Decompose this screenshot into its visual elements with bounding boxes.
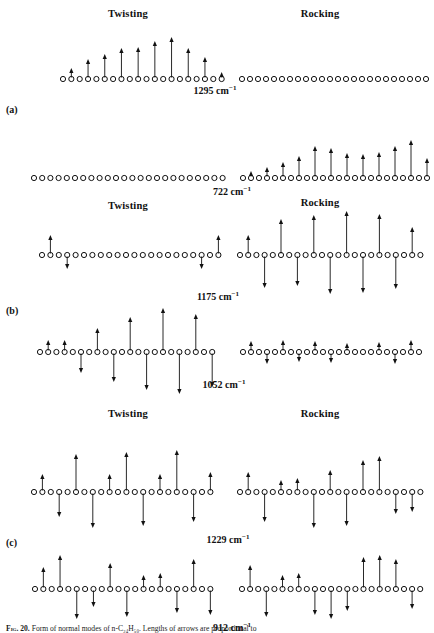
atom-marker: [237, 252, 242, 257]
figure-caption: Fig. 20. Form of normal modes of n-C₂₄H₅…: [6, 624, 430, 633]
displacement-arrow: [394, 559, 398, 588]
atom-marker: [288, 349, 293, 354]
panel-tag: (b): [6, 305, 18, 316]
displacement-arrow: [377, 342, 381, 351]
atom-marker: [163, 175, 168, 180]
atom-marker: [113, 175, 118, 180]
atom-marker: [54, 349, 59, 354]
displacement-arrow: [128, 317, 132, 351]
atom-marker: [359, 76, 364, 81]
frequency-unit-exponent: −1: [238, 378, 246, 386]
atom-marker: [311, 76, 316, 81]
atom-marker: [201, 349, 206, 354]
atom-chain-rocking: [240, 175, 429, 180]
atom-marker: [375, 76, 380, 81]
atom-marker: [72, 175, 77, 180]
atom-marker: [303, 489, 308, 494]
displacement-arrow: [265, 354, 269, 365]
atom-marker: [116, 586, 121, 591]
atom-marker: [327, 76, 332, 81]
mode-type-label: Twisting: [108, 200, 148, 211]
atom-marker: [187, 175, 192, 180]
displacement-arrow: [361, 257, 365, 294]
displacement-arrow: [394, 257, 398, 290]
atom-marker: [272, 349, 277, 354]
displacement-arrow: [40, 474, 44, 491]
displacement-arrow: [220, 72, 224, 78]
atom-marker: [407, 76, 412, 81]
atom-marker: [65, 489, 70, 494]
atom-marker: [99, 489, 104, 494]
displacement-arrow: [377, 214, 381, 254]
atom-chain-twisting: [31, 175, 225, 180]
displacement-arrow: [75, 591, 79, 620]
atom-marker: [127, 76, 132, 81]
atom-marker: [288, 175, 293, 180]
displacement-arrow: [265, 167, 269, 177]
displacement-arrow: [141, 494, 145, 527]
displacement-arrow: [393, 354, 397, 365]
atom-marker: [144, 76, 149, 81]
displacement-arrow: [394, 494, 398, 515]
atom-marker: [81, 175, 86, 180]
displacement-arrow: [177, 354, 181, 395]
frequency-unit-exponent: −1: [243, 185, 251, 193]
displacement-arrow: [312, 494, 316, 529]
displacement-arrow: [169, 37, 173, 78]
displacement-arrow: [194, 314, 198, 351]
atom-marker: [97, 175, 102, 180]
displacement-arrow: [329, 591, 333, 620]
atom-marker: [82, 489, 87, 494]
atom-marker: [272, 586, 277, 591]
atom-marker: [263, 76, 268, 81]
atom-marker: [199, 489, 204, 494]
frequency-unit-exponent: −1: [242, 533, 250, 541]
displacement-arrow: [41, 567, 45, 588]
atom-marker: [352, 252, 357, 257]
atom-marker: [418, 586, 423, 591]
atom-marker: [171, 175, 176, 180]
atom-marker: [130, 175, 135, 180]
displacement-arrow: [249, 171, 253, 177]
mode-type-label: Rocking: [301, 408, 340, 419]
atom-marker: [132, 489, 137, 494]
displacement-arrow: [279, 480, 283, 491]
panel-tag: (a): [6, 104, 18, 115]
atom-marker: [304, 586, 309, 591]
displacement-arrow: [329, 148, 333, 177]
displacement-arrow: [313, 146, 317, 177]
atom-marker: [105, 175, 110, 180]
atom-marker: [66, 586, 71, 591]
displacement-arrow: [91, 494, 95, 529]
displacement-arrow: [425, 158, 429, 177]
atom-marker: [31, 489, 36, 494]
atom-marker: [81, 252, 86, 257]
atom-marker: [99, 586, 104, 591]
atom-marker: [385, 252, 390, 257]
atom-marker: [254, 252, 259, 257]
atom-chain-twisting: [32, 586, 213, 591]
atom-marker: [270, 252, 275, 257]
atom-marker: [272, 175, 277, 180]
displacement-arrow: [145, 354, 149, 391]
atom-marker: [320, 349, 325, 354]
displacement-arrow: [345, 211, 349, 254]
atom-marker: [336, 349, 341, 354]
atom-marker: [256, 586, 261, 591]
atom-marker: [418, 489, 423, 494]
displacement-arrow: [46, 340, 50, 351]
atom-marker: [336, 489, 341, 494]
atom-marker: [418, 252, 423, 257]
atom-marker: [83, 586, 88, 591]
displacement-arrow: [136, 47, 140, 78]
frequency-unit-exponent: −1: [232, 290, 240, 298]
displacement-arrow: [279, 219, 283, 254]
atom-marker: [195, 175, 200, 180]
displacement-arrow: [69, 68, 73, 78]
atom-marker: [319, 489, 324, 494]
displacement-arrow: [249, 341, 253, 351]
atom-marker: [270, 489, 275, 494]
atom-marker: [94, 76, 99, 81]
mode-type-label: Twisting: [108, 408, 148, 419]
atom-marker: [256, 175, 261, 180]
